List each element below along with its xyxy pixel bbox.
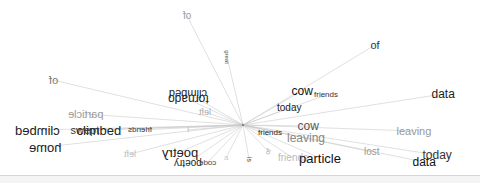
word-node-great[interactable]: great (224, 50, 230, 64)
word-node-left[interactable]: left (124, 150, 136, 159)
word-node-code[interactable]: code (199, 159, 216, 167)
word-node-today[interactable]: today (277, 103, 301, 113)
word-node-cow[interactable]: cow (292, 85, 313, 97)
word-node-is[interactable]: is (246, 156, 253, 161)
word-node-lost[interactable]: lost (364, 147, 380, 157)
word-node-leaving[interactable]: leaving (287, 132, 325, 144)
word-node-a[interactable]: a (224, 154, 228, 162)
word-node-data[interactable]: data (413, 156, 436, 168)
word-node-climbed[interactable]: climbed (15, 124, 60, 137)
word-association-diagram: ofgreatofofclimbedtornadocowfriendsdatap… (0, 0, 480, 183)
edge-line (243, 94, 443, 125)
word-node-of[interactable]: of (49, 75, 58, 86)
bottom-scrollbar-track[interactable] (0, 176, 480, 183)
word-node-friends[interactable]: friends (258, 129, 282, 137)
word-node-friends[interactable]: friends (128, 126, 152, 134)
word-node-of[interactable]: of (371, 40, 380, 51)
word-node-poetry[interactable]: poetry (174, 158, 202, 168)
word-node-left[interactable]: left (199, 108, 211, 117)
edge-line (227, 57, 243, 125)
word-node-data[interactable]: data (432, 88, 455, 100)
word-node-leaving[interactable]: leaving (397, 126, 432, 137)
edge-line (226, 125, 243, 158)
word-node-poetry[interactable]: poetry (162, 146, 198, 159)
word-node-of[interactable]: of (183, 11, 191, 21)
word-node-friends[interactable]: friends (314, 91, 338, 99)
word-node-particle[interactable]: particle (299, 152, 341, 165)
edge-layer (0, 0, 480, 183)
word-node-i[interactable]: I (187, 126, 189, 134)
word-node-swept[interactable]: swept (71, 125, 100, 136)
hub-node (242, 124, 244, 126)
word-node-home[interactable]: home (29, 141, 62, 154)
word-node-tornado[interactable]: tornado (168, 93, 209, 105)
word-node-particle[interactable]: particle (68, 109, 103, 120)
